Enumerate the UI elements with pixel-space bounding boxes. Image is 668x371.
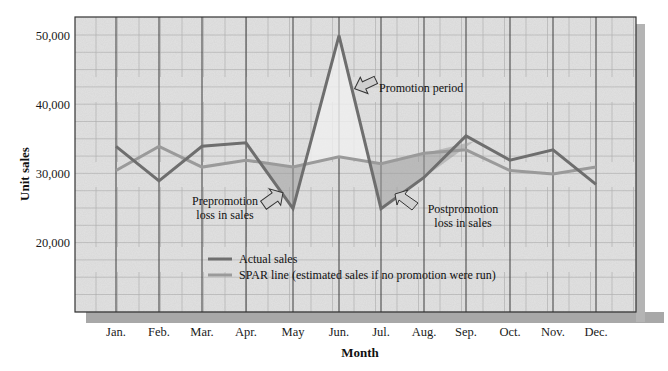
x-tick-label: Mar. (190, 325, 213, 339)
y-tick-label: 30,000 (36, 167, 70, 181)
x-tick-label: Dec. (584, 325, 607, 339)
annotation-prepromotion-line2: loss in sales (196, 208, 254, 222)
x-tick-label: Aug. (412, 325, 437, 339)
x-tick-label: Nov. (541, 325, 565, 339)
plot-shadow-bottom (86, 312, 664, 323)
annotation-postpromotion-line1: Postpromotion (428, 202, 499, 216)
annotation-prepromotion-line1: Prepromotion (192, 194, 258, 208)
y-tick-label: 50,000 (36, 29, 70, 43)
y-axis-title: Unit sales (17, 147, 32, 201)
x-axis-title: Month (341, 345, 379, 360)
x-tick-label: Sep. (455, 325, 477, 339)
legend-label-spar: SPAR line (estimated sales if no promoti… (239, 268, 496, 282)
y-axis-ticks: 20,00030,00040,00050,000 (36, 29, 70, 251)
x-tick-label: Oct. (499, 325, 520, 339)
x-tick-label: Apr. (235, 325, 257, 339)
x-tick-label: May (282, 325, 306, 339)
x-axis-ticks: Jan.Feb.Mar.Apr.MayJun.Jul.Aug.Sep.Oct.N… (106, 325, 608, 339)
x-tick-label: Jun. (329, 325, 350, 339)
annotation-promotion-period: Promotion period (379, 81, 463, 95)
legend-label-actual: Actual sales (239, 252, 298, 266)
x-tick-label: Jul. (372, 325, 390, 339)
annotation-postpromotion-line2: loss in sales (434, 216, 492, 230)
y-tick-label: 40,000 (36, 98, 70, 112)
y-tick-label: 20,000 (36, 236, 70, 250)
promotion-sales-chart: 20,00030,00040,00050,000 Jan.Feb.Mar.Apr… (0, 0, 668, 371)
x-tick-label: Jan. (106, 325, 126, 339)
plot-shadow-right (636, 24, 645, 322)
x-tick-label: Feb. (148, 325, 170, 339)
